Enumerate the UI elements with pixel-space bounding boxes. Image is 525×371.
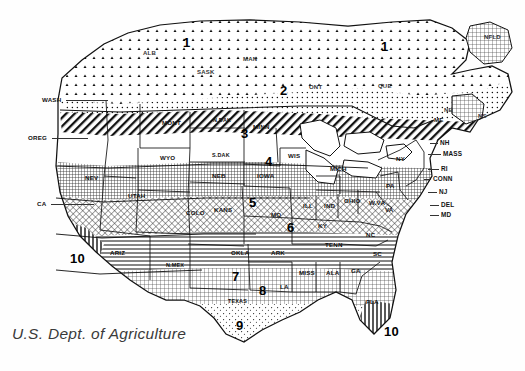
zone-number: 5: [249, 196, 256, 209]
state-label: NEB: [212, 173, 226, 179]
zone-number: 1: [381, 40, 388, 53]
state-label: LA: [280, 284, 289, 290]
province-label: NFLD: [484, 34, 501, 40]
state-label: ARK: [271, 250, 285, 256]
state-label: GA: [351, 268, 361, 274]
state-label: MICH: [330, 166, 347, 172]
state-label: WYO: [160, 155, 175, 161]
state-label: MO: [271, 212, 281, 218]
label-leader-line: [430, 215, 439, 216]
state-label: MINN: [253, 124, 270, 130]
state-label: N.DAK: [213, 118, 231, 123]
map-graphic: [0, 0, 525, 371]
state-label: CA: [37, 201, 46, 207]
province-label: MAN: [243, 56, 257, 62]
zone-number: 7: [232, 270, 239, 283]
province-label: QUE: [378, 83, 392, 89]
state-label: OREG: [28, 135, 47, 141]
zone-number: 3: [241, 127, 248, 140]
label-leader-line: [428, 154, 441, 155]
hardiness-zone-map: 11234567891010 WASHOREGCANEVUTAHARIZN.ME…: [0, 0, 525, 371]
state-label: ALA: [326, 270, 339, 276]
zone-number: 1: [183, 36, 190, 49]
state-label: VA: [385, 207, 394, 213]
state-label: ARIZ: [110, 250, 125, 256]
state-label: W.VA: [369, 200, 385, 206]
state-label: KY: [318, 223, 327, 229]
zone-number: 9: [236, 319, 243, 332]
edge-state-label: MASS: [443, 151, 462, 157]
label-leader-line: [428, 169, 439, 170]
state-label: TEXAS: [228, 299, 247, 304]
label-leader-line: [428, 192, 437, 193]
province-label: ONT: [309, 84, 322, 90]
state-label: KANS: [214, 207, 232, 213]
zone-number: 4: [265, 155, 272, 168]
province-label: NB: [444, 107, 453, 113]
state-label: MONT: [162, 120, 181, 126]
state-label: UTAH: [128, 193, 146, 199]
map-caption: U.S. Dept. of Agriculture: [12, 325, 186, 343]
state-label: NEV: [85, 175, 98, 181]
zone-number: 6: [287, 221, 294, 234]
label-leader-line: [66, 100, 108, 101]
zone-number: 2: [280, 84, 287, 97]
state-label: N.MEX: [166, 263, 184, 268]
state-label: IOWA: [257, 173, 274, 179]
state-label: NY: [396, 156, 405, 162]
state-label: OKLA: [231, 250, 249, 256]
zone-number: 10: [70, 252, 85, 265]
state-label: S.DAK: [212, 153, 230, 158]
label-leader-line: [424, 179, 431, 180]
state-label: TENN: [325, 242, 343, 248]
state-label: COLO: [186, 210, 205, 216]
state-label: ME: [434, 117, 444, 123]
label-leader-line: [52, 138, 88, 139]
edge-state-label: CONN: [433, 176, 453, 182]
state-label: FLA: [366, 299, 379, 305]
zone-number: 8: [259, 284, 266, 297]
state-label: WIS: [288, 153, 300, 159]
state-label: OHIO: [344, 198, 361, 204]
state-label: MISS: [299, 270, 315, 276]
label-leader-line: [430, 205, 439, 206]
state-label: IND: [324, 203, 335, 209]
state-label: ILL: [303, 203, 313, 209]
province-label: NS: [478, 113, 487, 119]
state-label: SC: [373, 251, 382, 257]
label-leader-line: [51, 204, 94, 205]
state-label: PA: [386, 183, 395, 189]
province-label: ALB: [143, 50, 156, 56]
edge-state-label: MD: [441, 212, 451, 218]
edge-state-label: RI: [441, 166, 448, 172]
label-leader-line: [430, 143, 438, 144]
province-label: SASK: [197, 69, 214, 75]
edge-state-label: NH: [440, 140, 450, 146]
state-label: WASH: [42, 97, 61, 103]
zone-number: 10: [384, 325, 399, 338]
edge-state-label: DEL: [441, 202, 454, 208]
edge-state-label: NJ: [439, 189, 448, 195]
state-label: NC: [366, 232, 375, 238]
